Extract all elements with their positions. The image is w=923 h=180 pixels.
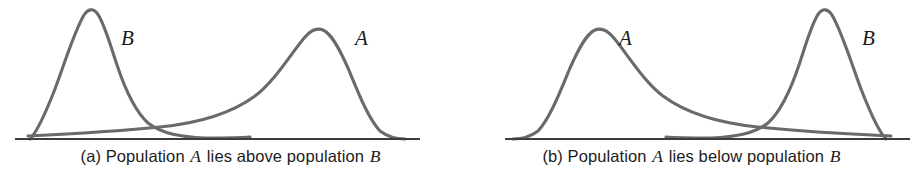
panel-b-caption-var-2: B: [829, 146, 842, 166]
panel-a-label-right-curve: A: [353, 26, 368, 50]
panel-b-curve-B: [666, 10, 886, 139]
panel-a-caption-mid: lies above population: [207, 147, 364, 165]
figure-container: B A (a) Population A lies above populati…: [0, 0, 923, 180]
panel-a-caption-var-1: A: [189, 146, 202, 166]
panel-a: B A (a) Population A lies above populati…: [0, 0, 462, 180]
panel-a-curve-A: [28, 29, 405, 139]
panel-b-caption-mid: lies below population: [669, 147, 824, 165]
panel-a-label-left-curve: B: [121, 26, 134, 50]
panel-b-label-right-curve: B: [862, 26, 875, 50]
panel-b-caption-prefix: (b) Population: [542, 147, 646, 165]
panel-a-plot: B A: [0, 0, 462, 145]
panel-a-caption-var-2: B: [369, 146, 382, 166]
panel-b-caption-var-1: A: [651, 146, 664, 166]
panel-b-caption: (b) Population A lies below population B: [461, 146, 923, 167]
panel-a-caption: (a) Population A lies above population B: [0, 146, 462, 167]
panel-b-curve-A: [513, 29, 891, 139]
panel-b-label-left-curve: A: [617, 26, 632, 50]
panel-b: A B (b) Population A lies below populati…: [461, 0, 923, 180]
panel-a-curve-B: [30, 10, 250, 139]
panel-a-caption-prefix: (a) Population: [81, 147, 185, 165]
panel-b-plot: A B: [461, 0, 923, 145]
